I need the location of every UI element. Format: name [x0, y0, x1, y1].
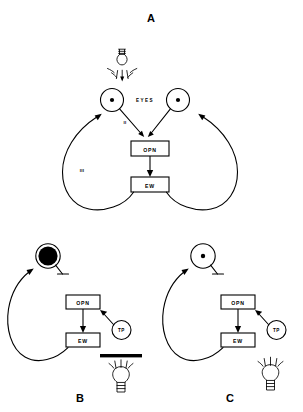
tp-node-b-label: TP — [118, 328, 125, 333]
tp-to-opn-arrow-b — [100, 310, 114, 325]
panel-a: A — [63, 12, 238, 210]
eyes-label: EYES — [136, 98, 154, 103]
opn-box-c-label: OPN — [231, 300, 244, 306]
opn-box-a-label: OPN — [143, 147, 156, 153]
panel-c-label: C — [226, 392, 234, 404]
efferent-pathway-b — [8, 268, 68, 360]
light-bulb-icon-c — [258, 357, 283, 390]
ew-box-b: EW — [66, 333, 100, 347]
light-bulb-icon — [108, 49, 137, 81]
panel-c: C OPN EW — [163, 244, 286, 404]
efferent-pathway-right — [167, 114, 238, 210]
afferent-pathway-right — [148, 109, 171, 137]
ew-box-a-label: EW — [145, 183, 155, 189]
opn-to-ew-arrow-b — [80, 310, 86, 334]
pathway-label-afferent: II — [123, 120, 126, 125]
opn-box-b-label: OPN — [76, 300, 89, 306]
pathway-label-efferent: III — [80, 168, 85, 173]
ew-box-c-label: EW — [233, 338, 243, 344]
ew-box-a: EW — [131, 177, 169, 192]
opn-to-ew-arrow-a — [147, 157, 153, 178]
occluder-bar-b — [100, 354, 142, 357]
eye-left — [101, 89, 124, 112]
tp-node-c-label: TP — [273, 328, 280, 333]
tp-node-b: TP — [112, 321, 131, 340]
ew-box-c: EW — [221, 333, 255, 347]
eye-dilated-b — [36, 244, 69, 274]
opn-box-b: OPN — [66, 295, 100, 309]
eye-constricted-c — [191, 244, 224, 274]
panel-a-label: A — [147, 12, 155, 24]
opn-to-ew-arrow-c — [235, 310, 241, 334]
tp-to-opn-arrow-c — [255, 310, 269, 325]
pupillary-light-reflex-diagram: A — [0, 0, 303, 412]
efferent-pathway-left — [63, 114, 134, 210]
figure-container: A — [0, 0, 303, 412]
eye-right — [167, 89, 190, 112]
ew-box-b-label: EW — [78, 338, 88, 344]
panel-b-label: B — [76, 392, 84, 404]
panel-b: B OPN EW — [8, 244, 142, 404]
opn-box-a: OPN — [131, 141, 169, 156]
efferent-pathway-c — [163, 268, 223, 360]
light-bulb-icon-b — [109, 360, 133, 392]
opn-box-c: OPN — [221, 295, 255, 309]
tp-node-c: TP — [267, 321, 286, 340]
